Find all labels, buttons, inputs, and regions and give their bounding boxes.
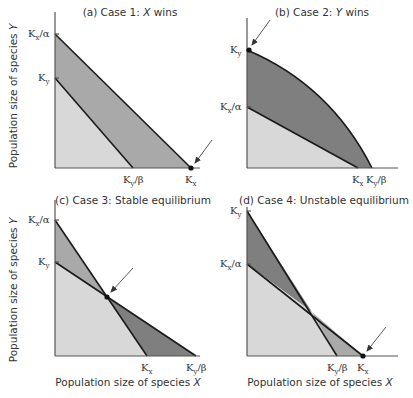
xtick-ky-beta: Ky/β: [327, 362, 348, 376]
region-light: [55, 262, 147, 356]
equilibrium-point: [188, 165, 193, 170]
equilibrium-point: [246, 47, 251, 52]
xtick-kx: Kx: [352, 174, 363, 188]
panel-a-ylabel: Population size of species Y: [7, 22, 19, 168]
panel-a-title: (a) Case 1: X wins: [83, 6, 178, 18]
panel-a: (a) Case 1: X wins Kx/α Ky Ky/β Kx Popul…: [7, 6, 212, 188]
xtick-kx: Kx: [141, 362, 152, 376]
equilibrium-point: [360, 353, 365, 358]
ytick-ky: Ky: [230, 44, 241, 58]
ytick-kx-alpha: Kx/α: [28, 214, 50, 228]
panel-c: (c) Case 3: Stable equilibrium Kx/α Ky K…: [7, 194, 211, 388]
ytick-ky: Ky: [38, 72, 49, 86]
ytick-kx-alpha: Kx/α: [28, 28, 50, 42]
xtick-ky-beta: Ky/β: [123, 174, 144, 188]
region-light: [247, 264, 337, 356]
panel-b: (b) Case 2: Y wins Ky Kx/α Kx Ky/β: [220, 6, 398, 188]
arrow-icon: [252, 20, 270, 45]
xtick-ky-beta: Ky/β: [366, 174, 387, 188]
xtick-ky-beta: Ky/β: [186, 362, 207, 376]
arrow-icon: [367, 327, 386, 351]
panel-d-title: (d) Case 4: Unstable equilibrium: [239, 194, 409, 206]
panel-b-title: (b) Case 2: Y wins: [275, 6, 369, 18]
panel-c-title: (c) Case 3: Stable equilibrium: [55, 194, 211, 206]
ytick-ky: Ky: [38, 256, 49, 270]
panel-d: (d) Case 4: Unstable equilibrium Ky Kx/α…: [220, 194, 409, 388]
arrow-icon: [195, 140, 212, 163]
competition-isoclines-diagram: (a) Case 1: X wins Kx/α Ky Ky/β Kx Popul…: [0, 0, 413, 398]
equilibrium-point: [104, 294, 109, 299]
arrow-icon: [111, 268, 133, 292]
ytick-kx-alpha: Kx/α: [220, 101, 242, 115]
xtick-kx: Kx: [185, 174, 196, 188]
panel-c-xlabel: Population size of species X: [55, 376, 201, 388]
panel-c-ylabel: Population size of species Y: [7, 216, 19, 362]
xtick-kx: Kx: [357, 362, 368, 376]
ytick-kx-alpha: Kx/α: [220, 258, 242, 272]
panel-d-xlabel: Population size of species X: [247, 376, 393, 388]
ytick-ky: Ky: [230, 205, 241, 219]
